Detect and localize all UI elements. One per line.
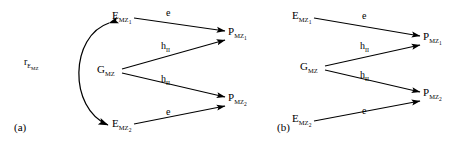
panel-b-arrows <box>234 0 467 145</box>
node-e-mz2-subsub: 2 <box>129 127 132 133</box>
panel-a: EMZ1 GMZ EMZ2 PMZ1 PMZ2 e hII hII e rEMZ <box>0 0 234 145</box>
arrow-e-mz2-to-p-mz2 <box>134 106 225 124</box>
node-g-mz: GMZ <box>300 61 318 75</box>
node-e-mz2: EMZ2 <box>112 118 132 134</box>
node-e-mz1-sub: MZ <box>299 16 309 23</box>
node-e-mz1-base: E <box>112 9 119 21</box>
node-p-mz2: PMZ2 <box>423 87 442 103</box>
node-e-mz1-base: E <box>292 9 299 21</box>
edge-label-e-bottom: e <box>362 106 366 116</box>
panel-a-caption: (a) <box>14 122 26 133</box>
edge-label-h-upper: hII <box>360 41 369 53</box>
node-e-mz2-base: E <box>292 112 299 124</box>
panel-b: EMZ1 GMZ EMZ2 PMZ1 PMZ2 e hII hII e (b) <box>234 0 467 145</box>
node-g-mz-base: G <box>97 63 105 75</box>
arrow-g-mz-to-p-mz2 <box>325 70 420 92</box>
node-p-mz1-subsub: 1 <box>439 40 442 46</box>
node-g-mz-sub: MZ <box>105 70 115 77</box>
node-p-mz2-sub: MZ <box>429 93 439 100</box>
node-e-mz2-base: E <box>112 117 119 129</box>
node-e-mz2-sub: MZ <box>119 124 129 131</box>
edge-label-h-lower: hII <box>360 70 369 82</box>
corr-subsub: MZ <box>31 66 39 71</box>
node-e-mz2: EMZ2 <box>292 113 312 129</box>
node-e-mz1: EMZ1 <box>292 10 312 26</box>
node-g-mz-base: G <box>300 60 308 72</box>
edge-label-e-top: e <box>362 11 366 21</box>
edge-label-h-upper: hII <box>161 41 170 53</box>
arrow-e-mz1-to-p-mz1 <box>134 18 225 31</box>
node-e-mz1-subsub: 1 <box>309 19 312 25</box>
arrow-e-mz2-to-p-mz2 <box>314 101 420 121</box>
node-p-mz1-sub: MZ <box>429 37 439 44</box>
correlation-label-r-e-mz: rEMZ <box>24 57 39 71</box>
edge-label-e-bottom: e <box>166 107 170 117</box>
figure-canvas: EMZ1 GMZ EMZ2 PMZ1 PMZ2 e hII hII e rEMZ <box>0 0 467 145</box>
arrow-g-mz-to-p-mz1 <box>325 45 420 66</box>
panel-b-caption: (b) <box>277 122 290 133</box>
node-e-mz1: EMZ1 <box>112 10 132 26</box>
node-e-mz2-sub: MZ <box>299 119 309 126</box>
node-g-mz: GMZ <box>97 64 115 78</box>
node-p-mz2-subsub: 2 <box>439 96 442 102</box>
edge-label-e-top: e <box>166 8 170 18</box>
node-e-mz1-subsub: 1 <box>129 19 132 25</box>
node-p-mz1: PMZ1 <box>423 31 442 47</box>
arrow-g-mz-to-p-mz1 <box>122 40 225 69</box>
arrow-g-mz-to-p-mz2 <box>122 73 225 97</box>
node-e-mz1-sub: MZ <box>119 16 129 23</box>
node-e-mz2-subsub: 2 <box>309 122 312 128</box>
edge-label-h-lower: hII <box>161 74 170 86</box>
node-g-mz-sub: MZ <box>308 67 318 74</box>
arrow-e-mz1-to-p-mz1 <box>314 18 420 36</box>
